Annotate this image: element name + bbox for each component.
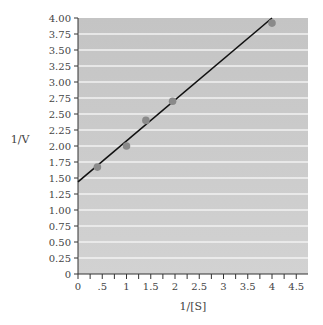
x-axis-label: 1/[S] <box>180 300 207 313</box>
x-tick-label: 1 <box>123 281 129 292</box>
y-tick-label: 1.50 <box>49 173 71 184</box>
y-tick-label: 3.25 <box>49 61 71 72</box>
data-point <box>169 97 177 105</box>
y-tick-label: 1.25 <box>49 189 71 200</box>
y-axis-label: 1/V <box>11 133 31 146</box>
y-tick-label: 2.25 <box>49 125 71 136</box>
lineweaver-burk-chart: 00.250.500.751.001.251.501.752.002.252.5… <box>0 0 323 325</box>
x-tick-label: 2 <box>172 281 178 292</box>
y-tick-label: 0.50 <box>49 237 71 248</box>
y-tick-label: 1.75 <box>49 157 71 168</box>
x-tick-label: 0 <box>75 281 81 292</box>
x-tick-label: 4.5 <box>288 281 304 292</box>
y-axis-ticks: 00.250.500.751.001.251.501.752.002.252.5… <box>49 13 78 280</box>
x-axis-ticks: 0.511.522.533.544.5 <box>75 274 304 292</box>
y-tick-label: 2.50 <box>49 109 71 120</box>
x-tick-label: 3 <box>220 281 226 292</box>
y-tick-label: 3.00 <box>49 77 71 88</box>
y-tick-label: 3.75 <box>49 29 71 40</box>
x-tick-label: 3.5 <box>240 281 256 292</box>
data-point <box>142 117 150 125</box>
y-tick-label: 1.00 <box>49 205 71 216</box>
y-tick-label: 2.75 <box>49 93 71 104</box>
y-tick-label: 2.00 <box>49 141 71 152</box>
x-tick-label: 4 <box>269 281 275 292</box>
y-tick-label: 3.50 <box>49 45 71 56</box>
x-tick-label: 2.5 <box>191 281 207 292</box>
data-point <box>123 142 131 150</box>
y-tick-label: 0.75 <box>49 221 71 232</box>
x-tick-label: .5 <box>97 281 107 292</box>
data-point <box>94 163 102 171</box>
x-tick-label: 1.5 <box>143 281 159 292</box>
y-tick-label: 4.00 <box>49 13 71 24</box>
y-tick-label: 0 <box>65 269 71 280</box>
data-point <box>268 19 276 27</box>
y-tick-label: 0.25 <box>49 253 71 264</box>
